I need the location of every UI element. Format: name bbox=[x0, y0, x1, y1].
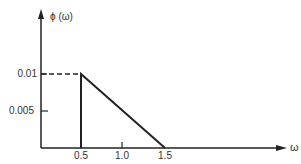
y-tick-label-0.01: 0.01 bbox=[7, 69, 37, 79]
chart-canvas bbox=[0, 0, 301, 164]
y-axis-label: ϕ (ω) bbox=[50, 12, 73, 22]
data-series-phi bbox=[81, 74, 165, 148]
x-tick-label-1.5: 1.5 bbox=[153, 151, 177, 161]
x-tick-label-0.5: 0.5 bbox=[69, 151, 93, 161]
x-axis-label: ω bbox=[290, 142, 299, 153]
y-axis-arrow-icon bbox=[38, 9, 44, 19]
x-axis-arrow-icon bbox=[276, 145, 287, 151]
x-tick-label-1.0: 1.0 bbox=[110, 151, 134, 161]
y-tick-label-0.005: 0.005 bbox=[4, 106, 34, 116]
